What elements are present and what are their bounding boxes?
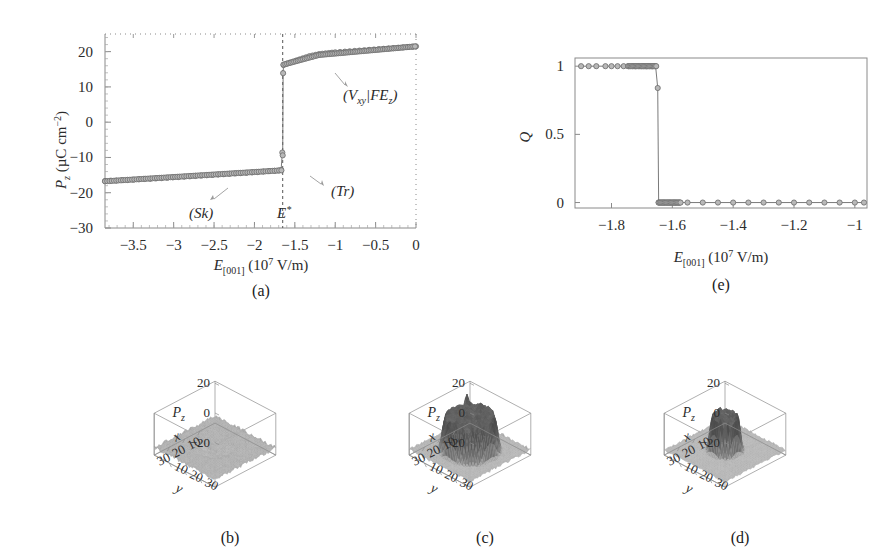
panel-a-caption: (a) bbox=[252, 282, 270, 300]
panel-e-data bbox=[578, 64, 866, 206]
svg-text:20: 20 bbox=[452, 375, 465, 390]
panel-d: 200−20Pz102030x102030y (d) bbox=[605, 330, 875, 552]
svg-text:0: 0 bbox=[714, 405, 721, 420]
svg-text:Pz: Pz bbox=[172, 405, 186, 423]
svg-text:20: 20 bbox=[197, 375, 210, 390]
figure-root: −3.5−3−2.5−2−1.5−1−0.50 20100−10−20−30 (… bbox=[0, 0, 877, 552]
panel-c-caption: (c) bbox=[476, 529, 494, 547]
svg-text:E[001] (107 V/m): E[001] (107 V/m) bbox=[673, 248, 769, 268]
svg-text:E[001] (107 V/m): E[001] (107 V/m) bbox=[213, 256, 309, 276]
svg-text:−3.5: −3.5 bbox=[120, 237, 147, 253]
svg-text:−1: −1 bbox=[327, 237, 343, 253]
panel-a-ytick-labels: 20100−10−20−30 bbox=[70, 44, 93, 236]
svg-text:−1: −1 bbox=[847, 217, 863, 233]
svg-text:0: 0 bbox=[459, 405, 466, 420]
panel-c: 200−20Pz102030x102030y (c) bbox=[350, 330, 620, 552]
panel-c-svg: 200−20Pz102030x102030y (c) bbox=[350, 330, 620, 552]
surface-d: 200−20Pz102030x102030y bbox=[664, 375, 786, 496]
svg-text:0: 0 bbox=[412, 237, 420, 253]
panel-b-caption: (b) bbox=[221, 529, 240, 547]
svg-text:−1.8: −1.8 bbox=[598, 217, 625, 233]
panel-a-data bbox=[102, 44, 418, 184]
panel-e-yticks bbox=[575, 66, 580, 202]
panel-d-svg: 200−20Pz102030x102030y (d) bbox=[605, 330, 875, 552]
panel-e-ytick-labels: 10.50 bbox=[545, 58, 564, 210]
svg-text:y: y bbox=[681, 479, 696, 496]
svg-text:−2: −2 bbox=[246, 237, 262, 253]
svg-text:Q: Q bbox=[517, 131, 533, 142]
annotation-tr: (Tr) bbox=[331, 183, 354, 200]
svg-text:Pz: Pz bbox=[682, 405, 696, 423]
svg-text:y: y bbox=[171, 479, 186, 496]
panel-e-axes bbox=[575, 58, 867, 208]
svg-text:−1.4: −1.4 bbox=[720, 217, 748, 233]
panel-d-caption: (d) bbox=[731, 529, 750, 547]
panel-a-xlabel: E[001] (107 V/m) bbox=[213, 256, 309, 276]
svg-text:0.5: 0.5 bbox=[545, 126, 564, 142]
svg-text:−20: −20 bbox=[70, 185, 93, 201]
svg-text:Pz: Pz bbox=[427, 405, 441, 423]
svg-text:E*: E* bbox=[276, 204, 291, 221]
panel-b: 200−20Pz102030x102030y (b) bbox=[95, 330, 365, 552]
annotation-vxy-fez: (Vxy|FEz) bbox=[343, 87, 397, 106]
annotation-estar: E* bbox=[276, 204, 291, 221]
panel-a-leaders bbox=[210, 73, 348, 200]
panel-a-axes bbox=[105, 34, 416, 228]
svg-text:10: 10 bbox=[78, 79, 93, 95]
panel-a-xtick-labels: −3.5−3−2.5−2−1.5−1−0.50 bbox=[120, 237, 420, 253]
svg-text:−10: −10 bbox=[70, 149, 93, 165]
panel-e-xtick-labels: −1.8−1.6−1.4−1.2−1 bbox=[598, 217, 863, 233]
svg-text:(Vxy|FEz): (Vxy|FEz) bbox=[343, 87, 397, 106]
svg-text:−2.5: −2.5 bbox=[200, 237, 227, 253]
panel-a-svg: −3.5−3−2.5−2−1.5−1−0.50 20100−10−20−30 (… bbox=[0, 0, 470, 300]
panel-e-svg: −1.8−1.6−1.4−1.2−1 10.50 Q E[001] (107 V… bbox=[470, 0, 877, 300]
panel-e-xlabel: E[001] (107 V/m) bbox=[673, 248, 769, 268]
svg-text:y: y bbox=[426, 479, 441, 496]
surface-b: 200−20Pz102030x102030y bbox=[154, 375, 276, 496]
panel-a-yticks bbox=[105, 52, 111, 228]
svg-text:0: 0 bbox=[557, 195, 565, 211]
svg-text:20: 20 bbox=[707, 375, 720, 390]
svg-text:1: 1 bbox=[557, 58, 565, 74]
panel-e-ylabel: Q bbox=[517, 131, 533, 142]
svg-text:0: 0 bbox=[86, 114, 94, 130]
panel-a: −3.5−3−2.5−2−1.5−1−0.50 20100−10−20−30 (… bbox=[0, 0, 470, 300]
panel-e-caption: (e) bbox=[712, 276, 730, 294]
svg-text:−1.2: −1.2 bbox=[780, 217, 807, 233]
svg-text:−1.6: −1.6 bbox=[659, 217, 687, 233]
panel-e: −1.8−1.6−1.4−1.2−1 10.50 Q E[001] (107 V… bbox=[470, 0, 877, 300]
surface-c: 200−20Pz102030x102030y bbox=[409, 375, 531, 496]
svg-text:−0.5: −0.5 bbox=[362, 237, 389, 253]
panel-b-svg: 200−20Pz102030x102030y (b) bbox=[95, 330, 365, 552]
panel-a-xticks bbox=[133, 34, 416, 228]
svg-text:0: 0 bbox=[204, 405, 211, 420]
svg-text:−3: −3 bbox=[166, 237, 182, 253]
svg-text:−1.5: −1.5 bbox=[281, 237, 308, 253]
svg-text:20: 20 bbox=[78, 44, 93, 60]
svg-text:−30: −30 bbox=[70, 220, 93, 236]
annotation-sk: (Sk) bbox=[189, 205, 213, 222]
